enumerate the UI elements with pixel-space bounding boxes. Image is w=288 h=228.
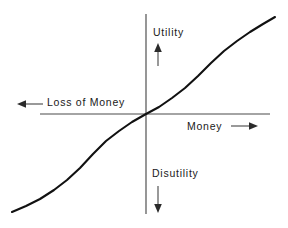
loss-of-money-left-arrow — [17, 100, 43, 107]
utility-axis-label: Utility — [153, 27, 184, 38]
diagram-canvas — [0, 0, 288, 228]
money-right-arrow — [231, 122, 258, 129]
disutility-down-arrow — [154, 186, 162, 213]
utility-up-arrow — [154, 43, 162, 66]
utility-money-diagram: Utility Disutility Money Loss of Money — [0, 0, 288, 228]
money-axis-label: Money — [187, 121, 222, 132]
loss-of-money-axis-label: Loss of Money — [47, 97, 125, 108]
disutility-axis-label: Disutility — [152, 168, 199, 179]
